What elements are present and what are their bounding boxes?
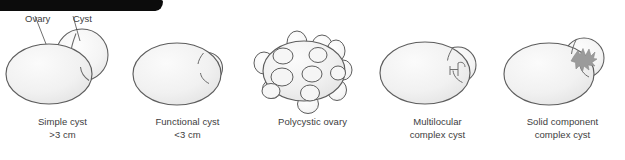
caption-solid-component-complex-cyst: Solid component complex cyst	[500, 116, 625, 141]
annotation-label-ovary: Ovary	[25, 13, 50, 24]
caption-line-1: Multilocular	[413, 116, 462, 127]
ovary-body	[380, 42, 470, 104]
panel-solid-component-complex-cyst: Solid component complex cyst	[500, 11, 625, 160]
caption-functional-cyst: Functional cyst <3 cm	[125, 116, 250, 141]
ovary-body	[133, 43, 221, 105]
annotation-label-cyst: Cyst	[73, 13, 92, 24]
caption-line-2: complex cyst	[375, 129, 500, 142]
ovary-body	[504, 43, 594, 105]
caption-line-1: Polycystic ovary	[278, 116, 347, 127]
caption-line-1: Simple cyst	[38, 116, 87, 127]
caption-polycystic-ovary: Polycystic ovary	[250, 116, 375, 129]
illustration-solid-component-complex-cyst	[500, 11, 625, 123]
caption-line-2: complex cyst	[500, 129, 625, 142]
illustration-polycystic-ovary	[250, 11, 375, 123]
caption-line-2: <3 cm	[125, 129, 250, 142]
caption-multilocular-complex-cyst: Multilocular complex cyst	[375, 116, 500, 141]
panel-multilocular-complex-cyst: Multilocular complex cyst	[375, 11, 500, 160]
black-header-bar	[0, 0, 163, 11]
caption-simple-cyst: Simple cyst >3 cm	[0, 116, 125, 141]
panel-simple-cyst: Ovary Cyst Simple cyst >3 cm	[0, 11, 125, 160]
illustration-functional-cyst	[125, 11, 250, 123]
illustration-simple-cyst	[0, 11, 125, 123]
caption-line-2: >3 cm	[0, 129, 125, 142]
caption-line-1: Solid component	[527, 116, 599, 127]
ovary-body	[6, 44, 92, 104]
ovarian-cyst-morphology-figure: Ovary Cyst Simple cyst >3 cm	[0, 11, 625, 160]
panel-polycystic-ovary: Polycystic ovary	[250, 11, 375, 160]
panel-functional-cyst: Functional cyst <3 cm	[125, 11, 250, 160]
illustration-multilocular-complex-cyst	[375, 11, 500, 123]
caption-line-1: Functional cyst	[155, 116, 219, 127]
